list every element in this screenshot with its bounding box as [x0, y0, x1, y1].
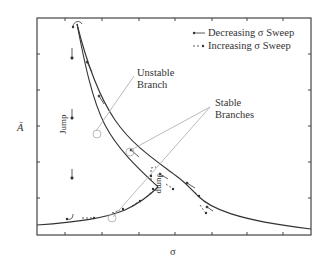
lower-stable-branch: [37, 187, 158, 225]
x-axis-label: σ: [170, 246, 176, 257]
legend: Decreasing σ Sweep Increasing σ Sweep: [193, 27, 294, 51]
stable-label-2: Branches: [215, 109, 254, 120]
annotation-leaders: [96, 76, 210, 217]
frequency-response-diagram: Unstable Branch Stable Branches Jump Jum…: [0, 0, 327, 268]
y-axis-label: Ā: [16, 122, 24, 133]
unstable-branch: [77, 24, 158, 187]
unstable-label-2: Branch: [137, 79, 168, 90]
jump-label-left: Jump: [58, 114, 68, 134]
jump-label-right: Jump: [155, 174, 165, 194]
jump-down-arrows: [71, 48, 73, 179]
stable-label-1: Stable: [215, 97, 242, 108]
legend-increasing: Increasing σ Sweep: [208, 40, 291, 51]
upper-stable-branch: [77, 24, 311, 229]
increasing-sweep-arrows: [82, 184, 205, 218]
legend-decreasing: Decreasing σ Sweep: [208, 27, 294, 38]
unstable-label-1: Unstable: [137, 67, 175, 78]
